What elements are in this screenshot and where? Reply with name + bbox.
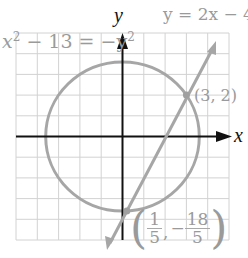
point-1-label: (3, 2) [194, 86, 237, 105]
y-axis-label: y [114, 4, 123, 27]
point-2-label: ( 15 , − 185 ) [130, 206, 227, 250]
circle-equation-label: x2 − 13 = −y2 [2, 30, 135, 52]
line-equation-label: y = 2x − 4 [163, 4, 248, 24]
intersection-point-1 [183, 92, 190, 99]
x-axis-label: x [234, 124, 243, 147]
